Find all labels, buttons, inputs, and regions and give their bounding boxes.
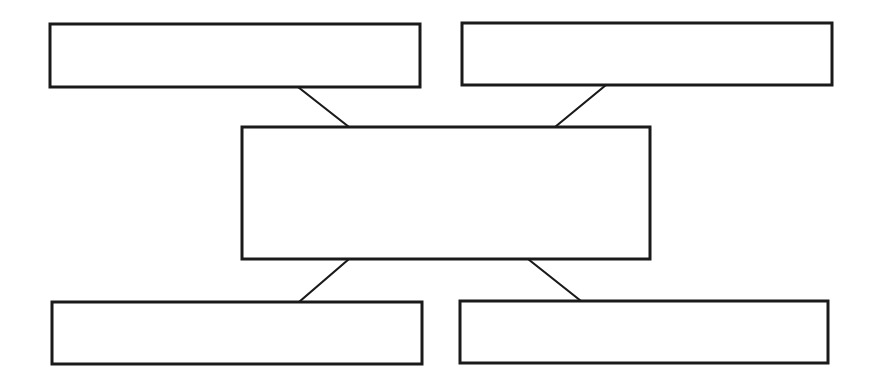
box-top-right-frame — [462, 23, 832, 85]
connector-center-to-bottom-left — [299, 259, 349, 302]
nodes — [50, 23, 832, 364]
connector-center-to-bottom-right — [528, 259, 581, 301]
box-bottom-right — [460, 301, 828, 363]
box-top-left-frame — [50, 24, 420, 87]
box-top-left — [50, 24, 420, 87]
box-bottom-left — [52, 302, 422, 364]
connector-top-left-to-center — [298, 87, 349, 127]
connector-top-right-to-center — [555, 85, 606, 127]
box-top-right — [462, 23, 832, 85]
box-center — [242, 127, 650, 259]
hub-and-spoke-diagram — [0, 0, 873, 379]
box-center-frame — [242, 127, 650, 259]
box-bottom-right-frame — [460, 301, 828, 363]
box-bottom-left-frame — [52, 302, 422, 364]
